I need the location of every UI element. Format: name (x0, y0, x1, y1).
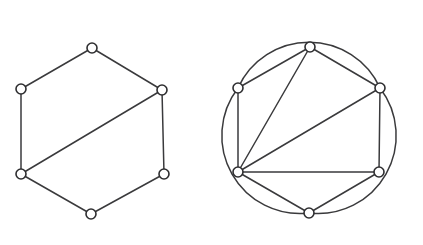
graph-node-R1 (305, 42, 315, 52)
graph-node-L1 (87, 43, 97, 53)
graph-node-L4 (86, 209, 96, 219)
graph-node-L6 (16, 84, 26, 94)
graph-node-L5 (16, 169, 26, 179)
graph-node-L3 (159, 169, 169, 179)
graph-node-L2 (157, 85, 167, 95)
graph-node-R3 (374, 167, 384, 177)
figure-root (0, 0, 423, 245)
figure-background (0, 0, 423, 245)
graph-node-R5 (233, 167, 243, 177)
graph-node-R6 (233, 83, 243, 93)
graph-node-R2 (375, 83, 385, 93)
graph-node-R4 (304, 208, 314, 218)
graph-figure-canvas (0, 0, 423, 245)
graph-edge-R2-R3 (379, 88, 380, 172)
